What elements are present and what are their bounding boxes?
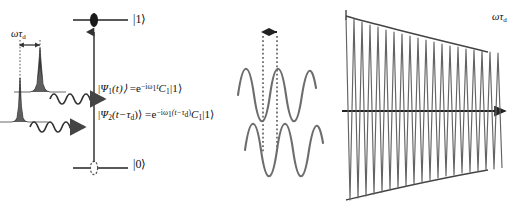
ground-state-marker <box>90 161 97 174</box>
panel-wave-overlap: ωτd <box>230 0 345 209</box>
panel-excitation-scheme: ωτd |1⟩ |0⟩ |Ψ1(t)⟩ =e−iω1tC1|1⟩ |Ψ2(t−τ… <box>0 0 230 209</box>
left-panel-graphic <box>0 0 230 209</box>
excited-state-marker <box>90 13 97 26</box>
photon-arrow-lower <box>30 122 84 132</box>
damped-oscillation-trace <box>346 17 502 200</box>
laser-pulse-delayed <box>14 48 66 92</box>
delay-label-left: ωτd <box>11 28 26 41</box>
equation-psi1: |Ψ1(t)⟩ =e−iω1tC1|1⟩ <box>98 82 182 96</box>
right-panel-graphic <box>340 0 527 209</box>
figure-container: ωτd |1⟩ |0⟩ |Ψ1(t)⟩ =e−iω1tC1|1⟩ |Ψ2(t−τ… <box>0 0 527 209</box>
excited-state-label: |1⟩ <box>133 12 146 27</box>
envelope-upper <box>346 16 488 52</box>
envelope-lower <box>346 170 488 200</box>
photon-arrow-upper <box>50 94 104 104</box>
middle-panel-graphic <box>230 0 345 209</box>
panel-coherence-decay: ∫∞−∞⟨Ψ1(t)|Ψ2(t)⟩ dt2 e−τd/T2 τd <box>340 0 527 209</box>
equation-psi2: |Ψ2(t−τd)⟩ =e−iω1(t−τd)C1|1⟩ <box>98 108 214 122</box>
ground-state-label: |0⟩ <box>133 157 146 172</box>
wave-delayed <box>245 124 323 177</box>
